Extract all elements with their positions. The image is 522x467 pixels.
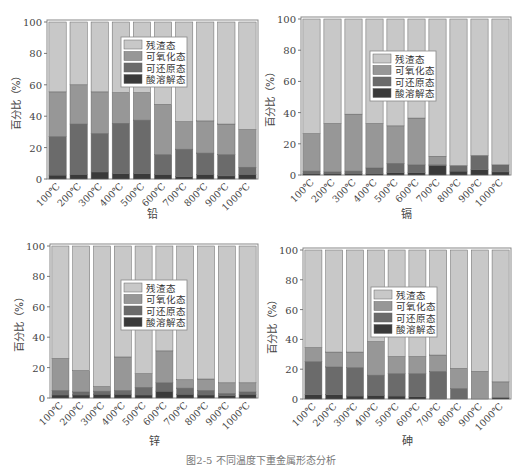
y-tick-label: 20: [283, 139, 296, 150]
bar-segment: [154, 155, 171, 175]
legend-swatch: [124, 295, 142, 304]
legend-swatch: [373, 89, 391, 98]
chart-title: 锌: [149, 434, 160, 448]
bar-segment: [408, 118, 425, 165]
legend-swatch: [373, 66, 391, 75]
bar-segment: [408, 165, 425, 173]
legend-swatch: [124, 52, 142, 61]
bar-segment: [91, 22, 108, 92]
bar-segment: [218, 246, 235, 383]
bar-segment: [408, 173, 425, 175]
legend-label: 残渣态: [146, 40, 176, 51]
bar-segment: [324, 124, 341, 172]
bar-segment: [156, 391, 173, 398]
bar-segment: [218, 383, 235, 394]
bar-segment: [345, 114, 362, 171]
legend-label: 可还原态: [146, 63, 186, 74]
bar-segment: [471, 19, 488, 156]
bar-segment: [239, 130, 256, 168]
chart-svg: 020406080100百分比（%）100℃200℃300℃400℃500℃60…: [261, 0, 522, 232]
bar-segment: [346, 250, 363, 352]
y-tick-label: 80: [32, 271, 45, 282]
bar-segment: [471, 170, 488, 175]
bar-segment: [49, 92, 66, 137]
bar-segment: [239, 174, 256, 179]
legend-swatch: [374, 290, 392, 299]
bar-segment: [112, 123, 129, 173]
bar-segment: [70, 174, 87, 179]
legend-label: 可氧化态: [396, 301, 436, 312]
legend-label: 可还原态: [395, 77, 435, 88]
bar-segment: [429, 166, 446, 175]
bar-segment: [49, 175, 66, 179]
bar-segment: [93, 391, 110, 394]
bar-segment: [177, 394, 194, 398]
bar-segment: [492, 172, 509, 175]
bar-segment: [346, 352, 363, 368]
bar-segment: [326, 367, 343, 395]
bar-segment: [409, 357, 426, 374]
y-tick-label: 40: [285, 334, 298, 345]
stacked-bar: [239, 22, 256, 179]
legend-label: 残渣态: [395, 54, 425, 65]
bar-segment: [112, 174, 129, 179]
stacked-bar: [52, 246, 69, 398]
legend: 残渣态可氧化态可还原态酸溶解态: [121, 37, 187, 87]
bar-segment: [135, 395, 152, 398]
y-tick-label: 0: [36, 174, 42, 185]
bar-segment: [471, 371, 488, 399]
bar-segment: [450, 171, 467, 175]
bar-segment: [492, 165, 509, 172]
bar-segment: [345, 171, 362, 173]
bar-segment: [112, 93, 129, 124]
stacked-bar: [49, 22, 66, 179]
legend-label: 酸溶解态: [146, 317, 186, 328]
bar-segment: [175, 149, 192, 176]
bar-segment: [177, 380, 194, 388]
bar-segment: [70, 124, 87, 174]
chart-title: 铅: [147, 207, 158, 221]
stacked-bar: [218, 246, 235, 398]
bar-segment: [177, 388, 194, 394]
bar-segment: [133, 120, 150, 173]
bar-segment: [52, 390, 69, 395]
bar-segment: [239, 383, 256, 392]
bar-segment: [114, 357, 131, 390]
stacked-bar: [471, 250, 488, 399]
bar-segment: [218, 155, 235, 176]
bar-segment: [133, 174, 150, 179]
bar-segment: [197, 121, 214, 153]
stacked-bar: [492, 250, 509, 399]
bar-segment: [73, 371, 90, 392]
y-tick-label: 60: [32, 302, 45, 313]
bar-segment: [450, 250, 467, 368]
bar-segment: [114, 390, 131, 394]
stacked-bar: [91, 22, 108, 179]
stacked-bar: [326, 250, 343, 399]
y-tick-label: 60: [29, 80, 42, 91]
y-axis-label: 百分比（%）: [264, 67, 276, 127]
legend: 残渣态可氧化态可还原态酸溶解态: [121, 280, 187, 330]
bar-segment: [367, 342, 384, 376]
stacked-bar: [303, 19, 320, 175]
bar-segment: [49, 137, 66, 175]
legend-swatch: [124, 63, 142, 72]
bar-segment: [218, 176, 235, 179]
bar-segment: [303, 134, 320, 171]
bar-segment: [346, 368, 363, 396]
bar-segment: [239, 392, 256, 394]
y-axis-label: 百分比（%）: [13, 292, 25, 352]
legend: 残渣态可氧化态可还原态酸溶解态: [371, 287, 437, 337]
y-axis-label: 百分比（%）: [266, 295, 278, 355]
bar-segment: [305, 348, 322, 362]
bar-segment: [388, 374, 405, 396]
y-tick-label: 80: [285, 275, 298, 286]
bar-segment: [305, 250, 322, 348]
bar-segment: [305, 362, 322, 395]
legend-label: 残渣态: [396, 290, 426, 301]
bar-segment: [239, 22, 256, 130]
y-tick-label: 100: [23, 17, 42, 28]
legend-swatch: [373, 77, 391, 86]
legend-label: 可氧化态: [395, 65, 435, 76]
bar-segment: [367, 395, 384, 399]
